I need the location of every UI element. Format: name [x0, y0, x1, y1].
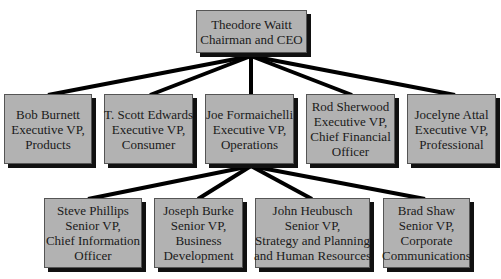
svp-name: Steve Phillips [57, 203, 129, 218]
svp-title: Senior VP, [399, 218, 454, 233]
svp-box-shaw: Brad Shaw Senior VP, Corporate Communica… [383, 198, 470, 268]
svp-dept-cont: and Human Resources [254, 248, 371, 263]
ceo-name: Theodore Waitt [211, 17, 292, 32]
exec-box-edwards: T. Scott Edwards Executive VP, Consumer [104, 94, 193, 164]
svp-box-phillips: Steve Phillips Senior VP, Chief Informat… [44, 198, 142, 268]
exec-dept: Operations [221, 137, 278, 152]
exec-title: Executive VP, [11, 122, 84, 137]
connector-ceo-attal [251, 56, 455, 95]
exec-dept: Chief Financial [310, 129, 391, 144]
ceo-box: Theodore Waitt Chairman and CEO [196, 10, 307, 53]
svp-title: Senior VP, [285, 218, 340, 233]
exec-dept: Professional [419, 137, 483, 152]
svp-dept: Strategy and Planning [255, 233, 370, 248]
connector-ops-shaw [251, 166, 425, 199]
exec-name: Bob Burnett [16, 107, 80, 122]
exec-title: Executive VP, [213, 122, 286, 137]
connector-ceo-edwards [150, 56, 251, 95]
exec-title: Executive VP, [314, 114, 387, 129]
exec-name: Rod Sherwood [312, 99, 390, 114]
svp-box-burke: Joseph Burke Senior VP, Business Develop… [154, 198, 243, 268]
exec-dept: Consumer [122, 137, 175, 152]
svp-dept: Business [175, 233, 221, 248]
svp-dept-cont: Officer [74, 248, 111, 263]
exec-box-attal: Jocelyne Attal Executive VP, Professiona… [407, 94, 496, 164]
connector-ceo-burnett [48, 56, 251, 95]
svp-name: Brad Shaw [398, 203, 455, 218]
exec-dept: Products [25, 137, 71, 152]
svp-title: Senior VP, [65, 218, 120, 233]
svp-box-heubusch: John Heubusch Senior VP, Strategy and Pl… [255, 198, 370, 268]
svp-dept: Corporate [401, 233, 453, 248]
exec-name: T. Scott Edwards [104, 107, 193, 122]
svp-dept-cont: Development [163, 248, 233, 263]
svp-dept-cont: Communications [382, 248, 471, 263]
connector-ceo-sherwood [251, 56, 352, 95]
exec-dept-cont: Officer [332, 144, 369, 159]
exec-title: Executive VP, [112, 122, 185, 137]
svp-dept: Chief Information [46, 233, 140, 248]
ceo-title: Chairman and CEO [200, 32, 303, 47]
exec-name: Jocelyne Attal [414, 107, 488, 122]
svp-name: John Heubusch [273, 203, 353, 218]
svp-title: Senior VP, [171, 218, 226, 233]
exec-title: Executive VP, [415, 122, 488, 137]
exec-box-sherwood: Rod Sherwood Executive VP, Chief Financi… [306, 94, 395, 164]
svp-name: Joseph Burke [163, 203, 233, 218]
exec-name: Joe Formaichelli [206, 107, 293, 122]
exec-box-burnett: Bob Burnett Executive VP, Products [4, 94, 92, 164]
exec-box-formaichelli: Joe Formaichelli Executive VP, Operation… [205, 94, 294, 164]
